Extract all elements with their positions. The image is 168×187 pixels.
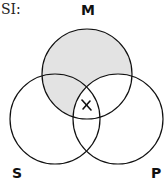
shaded-region [0,0,168,187]
venn-diagram [0,0,168,187]
